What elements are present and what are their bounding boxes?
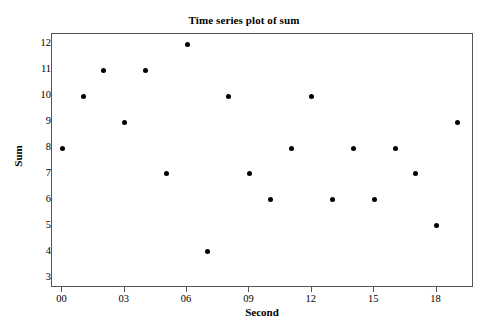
x-tick-label: 09	[233, 293, 263, 304]
scatter-point	[268, 197, 273, 202]
y-tick-label: 8	[25, 142, 51, 152]
scatter-point	[351, 146, 356, 151]
x-tick-label: 00	[46, 293, 76, 304]
y-tick-label: 4	[25, 246, 51, 256]
plot-area	[51, 33, 473, 287]
chart-title: Time series plot of sum	[0, 14, 488, 26]
scatter-point	[372, 197, 377, 202]
x-tick-mark	[248, 287, 249, 292]
y-axis-ticks: 3456789101112	[14, 33, 51, 287]
scatter-point	[413, 171, 418, 176]
x-tick-label: 15	[358, 293, 388, 304]
x-tick-mark	[186, 287, 187, 292]
scatter-point	[101, 68, 106, 73]
scatter-point	[247, 171, 252, 176]
x-tick-label: 18	[421, 293, 451, 304]
scatter-point	[81, 94, 86, 99]
y-tick-label: 5	[25, 220, 51, 230]
scatter-point	[434, 223, 439, 228]
scatter-point	[205, 249, 210, 254]
chart-figure: Time series plot of sum Sum 345678910111…	[0, 0, 488, 332]
scatter-point	[143, 68, 148, 73]
x-tick-label: 03	[109, 293, 139, 304]
scatter-point	[226, 94, 231, 99]
scatter-point	[122, 120, 127, 125]
x-tick-mark	[373, 287, 374, 292]
y-tick-label: 10	[25, 90, 51, 100]
x-tick-mark	[61, 287, 62, 292]
scatter-point	[330, 197, 335, 202]
y-tick-label: 3	[25, 272, 51, 282]
scatter-point	[60, 146, 65, 151]
x-tick-mark	[436, 287, 437, 292]
scatter-point	[185, 42, 190, 47]
scatter-point	[309, 94, 314, 99]
x-tick-label: 12	[296, 293, 326, 304]
scatter-point	[455, 120, 460, 125]
scatter-points-layer	[52, 34, 472, 286]
x-tick-label: 06	[171, 293, 201, 304]
x-tick-mark	[311, 287, 312, 292]
y-tick-label: 11	[25, 64, 51, 74]
scatter-point	[164, 171, 169, 176]
y-tick-label: 7	[25, 168, 51, 178]
y-tick-label: 12	[25, 38, 51, 48]
scatter-point	[393, 146, 398, 151]
scatter-point	[289, 146, 294, 151]
x-tick-mark	[124, 287, 125, 292]
x-axis-label: Second	[51, 306, 473, 318]
y-tick-label: 9	[25, 116, 51, 126]
y-tick-label: 6	[25, 194, 51, 204]
